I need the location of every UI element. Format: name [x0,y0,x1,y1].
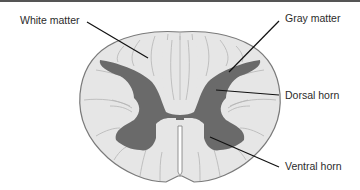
dorsal-horn-label: Dorsal horn [285,90,339,101]
white-matter-label: White matter [20,15,80,26]
gray-matter-label: Gray matter [285,13,340,24]
ventral-horn-label: Ventral horn [285,161,342,172]
ventral-median-fissure [178,126,182,176]
